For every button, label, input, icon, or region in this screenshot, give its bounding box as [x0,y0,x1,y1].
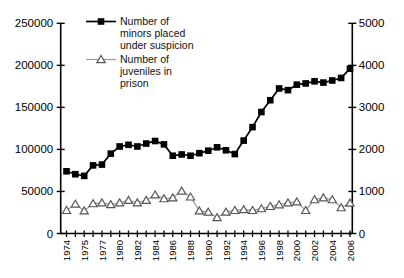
chart-legend: Number of minors placed under suspicion … [86,15,194,89]
legend-entry-minors-under-suspicion: Number of minors placed under suspicion [86,15,194,51]
open-triangle-marker [151,191,159,198]
filled-square-marker [161,141,168,148]
x-axis-tick-label: 1988 [185,240,196,261]
open-triangle-marker [98,199,106,206]
filled-square-marker [276,85,283,92]
legend-sample-juveniles [86,54,116,65]
filled-square-marker [205,147,212,154]
left-axis-tick-label: 100000 [15,143,53,155]
x-axis-tick-label: 1992 [221,240,232,261]
filled-square-marker [267,97,274,104]
x-axis-tick-label: 1990 [203,240,214,261]
x-axis-tick-label: 1998 [274,240,285,261]
filled-square-marker [134,143,141,150]
left-axis-tick-label: 50000 [21,185,53,197]
legend-entry-juveniles-in-prison: Number of juveniles in prison [86,53,194,89]
filled-square-marker [285,87,292,94]
x-axis-tick-label: 1980 [114,240,125,261]
filled-square-marker [232,151,239,158]
filled-square-marker [338,75,345,82]
legend-label-line: juveniles in [120,65,172,77]
filled-square-marker [329,77,336,84]
filled-square-marker [107,150,114,157]
legend-label-line: under suspicion [120,39,194,51]
filled-square-marker [196,150,203,157]
open-triangle-marker [240,206,248,213]
right-axis-tick-label: 4000 [359,59,385,71]
open-triangle-marker [213,214,221,221]
legend-label-minors: Number of minors placed under suspicion [120,15,194,51]
open-triangle-marker [62,206,70,213]
open-triangle-marker [142,196,150,203]
legend-label-line: prison [120,77,172,89]
left-axis-tick-label: 150000 [15,101,53,113]
x-axis-tick-label: 1974 [61,240,72,261]
filled-square-marker [63,168,70,175]
right-axis-tick-label: 0 [359,228,365,240]
legend-label-line: Number of [120,53,172,65]
right-axis-tick-label: 1000 [359,185,385,197]
filled-square-marker [249,124,256,131]
legend-label-line: minors placed [120,27,194,39]
filled-square-marker [116,143,123,150]
legend-label-juveniles: Number of juveniles in prison [120,53,172,89]
filled-square-marker [302,80,309,87]
x-axis-tick-label: 2000 [291,240,302,261]
filled-square-marker [143,140,150,147]
open-triangle-marker [71,200,79,207]
right-axis-tick-label: 5000 [359,17,385,29]
filled-square-marker [320,79,327,86]
line-chart-canvas: 0500001000001500002000002500000100020003… [0,0,404,278]
x-axis-tick-label: 1994 [238,240,249,261]
left-axis-tick-label: 250000 [15,17,53,29]
x-axis-tick-label: 1977 [97,240,108,261]
open-triangle-marker [178,187,186,194]
filled-square-marker [81,173,88,180]
legend-label-line: Number of [120,15,194,27]
filled-square-marker [311,78,318,85]
chart-figure: 0500001000001500002000002500000100020003… [0,0,404,278]
filled-square-marker [99,161,106,168]
open-triangle-marker [293,198,301,205]
open-triangle-marker [124,196,132,203]
x-axis-tick-label: 1975 [79,240,90,261]
x-axis-tick-label: 1996 [256,240,267,261]
filled-square-marker [214,144,221,151]
right-axis-tick-label: 3000 [359,101,385,113]
legend-sample-minors [86,16,116,27]
x-axis-tick-label: 2002 [309,240,320,261]
x-axis-tick-label: 2004 [327,240,338,261]
filled-square-marker [178,151,185,158]
filled-square-marker [258,109,265,116]
filled-square-marker [187,152,194,159]
filled-square-marker [152,138,159,145]
right-axis-tick-label: 2000 [359,143,385,155]
filled-square-icon [98,18,105,25]
filled-square-marker [294,81,301,88]
open-triangle-marker [186,193,194,200]
filled-square-marker [72,171,79,178]
filled-square-marker [240,137,247,144]
filled-square-marker [170,152,177,159]
filled-square-marker [125,141,132,148]
x-axis-tick-label: 1986 [167,240,178,261]
x-axis-tick-label: 1984 [150,240,161,261]
left-axis-tick-label: 0 [47,228,53,240]
filled-square-marker [223,147,230,154]
x-axis-tick-label: 1982 [132,240,143,261]
filled-square-marker [90,162,97,169]
open-triangle-marker [195,207,203,214]
left-axis-tick-label: 200000 [15,59,53,71]
filled-square-marker [347,65,354,72]
x-axis-tick-label: 2006 [345,240,356,261]
open-triangle-marker [319,194,327,201]
